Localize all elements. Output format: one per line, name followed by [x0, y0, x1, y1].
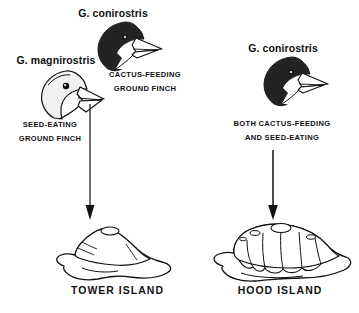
- caption-conirostris-tower-line1: CACTUS-FEEDING: [95, 70, 195, 81]
- island-shape-hood: [207, 220, 355, 286]
- species-label-magnirostris: G. magnirostris: [4, 53, 108, 67]
- finch-head-conirostris-hood: [258, 55, 332, 107]
- caption-conirostris-hood-line1: BOTH CACTUS-FEEDING: [213, 119, 350, 130]
- arrow-down-hood: [263, 150, 283, 222]
- species-label-conirostris-tower: G. conirostris: [63, 6, 163, 20]
- island-label-tower: TOWER ISLAND: [44, 283, 191, 298]
- arrow-down-tower: [80, 104, 100, 222]
- caption-conirostris-hood-line2: AND SEED-EATING: [213, 133, 350, 144]
- species-label-conirostris-hood: G. conirostris: [231, 41, 335, 55]
- island-label-hood: HOOD ISLAND: [209, 283, 352, 298]
- figure-canvas: G. conirostris CACTUS-FEEDING GROUND FIN…: [0, 0, 359, 313]
- island-shape-tower: [52, 222, 182, 284]
- caption-conirostris-tower-line2: GROUND FINCH: [95, 84, 195, 95]
